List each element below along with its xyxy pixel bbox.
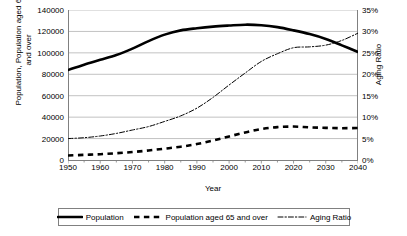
y-axis-right-tick-label: 5% — [362, 134, 392, 143]
legend-label: Aging Ratio — [310, 213, 351, 222]
y-axis-left-tick-label: 60000 — [20, 91, 64, 100]
legend-swatch-solid — [57, 213, 83, 221]
legend-swatch-dashed — [133, 213, 163, 221]
series-line — [68, 127, 358, 156]
y-axis-right-tick-label: 25% — [362, 48, 392, 57]
legend-item[interactable]: Aging Ratio — [277, 213, 351, 222]
y-axis-left-tick-label: 140000 — [20, 6, 64, 15]
x-axis-title: Year — [68, 184, 358, 193]
y-axis-right-tick-label: 30% — [362, 27, 392, 36]
y-axis-left-ticks: 020000400006000080000100000120000140000 — [18, 0, 64, 236]
y-axis-left-tick-label: 80000 — [20, 70, 64, 79]
y-axis-left-tick-label: 100000 — [20, 48, 64, 57]
y-axis-left-tick-label: 120000 — [20, 27, 64, 36]
legend-swatch-dashdot — [277, 213, 307, 221]
chart-legend: PopulationPopulation aged 65 and overAgi… — [58, 208, 350, 226]
legend-label: Population aged 65 and over — [166, 213, 268, 222]
y-axis-left-tick-label: 20000 — [20, 134, 64, 143]
legend-item[interactable]: Population aged 65 and over — [133, 213, 268, 222]
legend-label: Population — [86, 213, 124, 222]
legend-item[interactable]: Population — [57, 213, 124, 222]
y-axis-right-tick-label: 10% — [362, 113, 392, 122]
plot-svg — [68, 10, 358, 166]
y-axis-right-tick-label: 35% — [362, 6, 392, 15]
chart-container: Population, Population aged 65 and over … — [0, 0, 407, 236]
plot-area — [68, 10, 358, 160]
y-axis-right-ticks: 0%5%10%15%20%25%30%35% — [362, 0, 396, 236]
y-axis-left-tick-label: 40000 — [20, 113, 64, 122]
y-axis-right-tick-label: 20% — [362, 70, 392, 79]
y-axis-right-tick-label: 15% — [362, 91, 392, 100]
series-line — [68, 33, 358, 138]
